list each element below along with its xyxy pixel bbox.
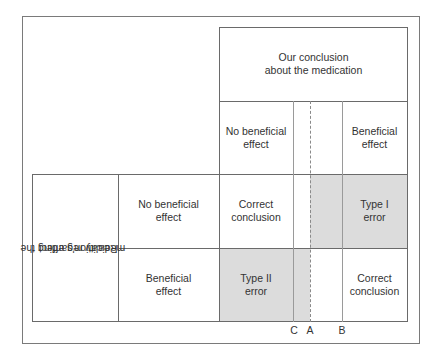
- cell-r2c1-line2: error: [245, 285, 267, 298]
- header-title-line2: about the medication: [265, 64, 362, 77]
- marker-c: C: [290, 324, 298, 336]
- column-header-no-effect-line2: effect: [243, 138, 269, 151]
- row-header-effect-line2: effect: [156, 285, 182, 298]
- cell-r1c2-line2: error: [363, 211, 385, 224]
- cell-r2c1-line1: Type II: [240, 272, 272, 285]
- column-header-effect-line2: effect: [362, 138, 388, 151]
- cell-type-i-error: Type I error: [342, 174, 407, 248]
- cell-type-ii-error: Type II error: [219, 248, 293, 321]
- row-header-effect: Beneficial effect: [118, 248, 219, 321]
- row-header-no-effect-line2: effect: [156, 211, 182, 224]
- right-edge: [407, 27, 408, 322]
- row-header-no-effect: No beneficial effect: [118, 174, 219, 248]
- row-axis-label-line2: medication's effect: [33, 242, 130, 255]
- threshold-c-line: [293, 101, 294, 322]
- column-header-no-effect-line1: No beneficial: [226, 125, 287, 138]
- marker-a: A: [306, 324, 313, 336]
- row-header-effect-line1: Beneficial: [146, 272, 192, 285]
- column-header-no-effect: No beneficial effect: [219, 101, 293, 174]
- threshold-a-line: [310, 101, 311, 322]
- header-title: Our conclusion about the medication: [219, 27, 408, 101]
- row-axis-label: Reality regarding the medication's effec…: [32, 174, 118, 322]
- cell-r1c1-line1: Correct: [239, 198, 273, 211]
- cell-correct-conclusion-2: Correct conclusion: [342, 248, 407, 321]
- cell-r1c1-line2: conclusion: [231, 211, 281, 224]
- cell-r1c2-line1: Type I: [360, 198, 389, 211]
- cell-r2c2-line2: conclusion: [350, 285, 400, 298]
- column-header-effect-line1: Beneficial: [352, 125, 398, 138]
- cell-r2c2-line1: Correct: [357, 272, 391, 285]
- cell-correct-conclusion-1: Correct conclusion: [219, 174, 293, 248]
- column-header-effect: Beneficial effect: [342, 101, 407, 174]
- marker-b: B: [338, 324, 345, 336]
- header-title-line1: Our conclusion: [278, 51, 348, 64]
- row-header-no-effect-line1: No beneficial: [138, 198, 199, 211]
